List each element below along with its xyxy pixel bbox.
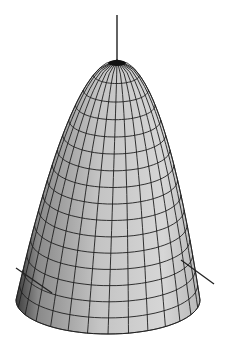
apex-cap bbox=[108, 60, 126, 66]
paraboloid-figure bbox=[0, 0, 230, 353]
